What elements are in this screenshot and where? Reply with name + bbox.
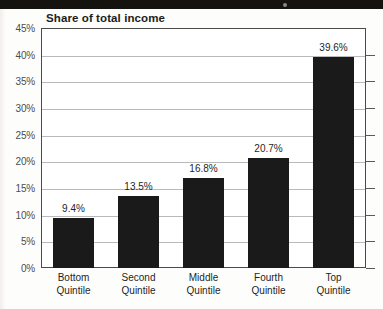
y-axis-tick-label: 45% [1,23,35,34]
bar-value-label: 9.4% [62,203,85,214]
axis-tick [366,161,375,162]
axis-tick [366,135,375,136]
y-axis-tick-label: 0% [1,263,35,274]
bar-value-label: 39.6% [319,42,347,53]
y-axis-tick-label: 30% [1,103,35,114]
bar [183,178,224,268]
category-label-line: Quintile [187,285,221,298]
chart-title: Share of total income [46,12,165,24]
axis-tick [366,108,375,109]
chart-figure: Share of total income 0%5%10%15%20%25%30… [0,0,383,309]
axis-tick [366,241,375,242]
y-axis-tick-label: 40% [1,49,35,60]
bar [248,158,289,268]
category-label-line: Quintile [57,285,91,298]
category-label-line: Quintile [317,285,351,298]
category-label-line: Quintile [252,285,286,298]
axis-tick [366,268,375,269]
y-axis-tick-label: 35% [1,76,35,87]
x-axis-category-label: BottomQuintile [57,272,91,297]
x-axis-category-label: SecondQuintile [122,272,156,297]
category-label-line: Fourth [252,272,286,285]
axis-tick [366,55,375,56]
y-axis-tick-label: 20% [1,156,35,167]
y-axis-tick-label: 15% [1,183,35,194]
category-label-line: Bottom [57,272,91,285]
category-label-line: Middle [187,272,221,285]
category-label-line: Quintile [122,285,156,298]
axis-tick [366,188,375,189]
bar [118,196,159,268]
axis-tick [366,81,375,82]
y-axis-tick-label: 10% [1,209,35,220]
bar-value-label: 16.8% [189,163,217,174]
y-axis-tick-label: 25% [1,129,35,140]
bar [313,57,354,268]
axis-tick [366,215,375,216]
x-axis-category-label: TopQuintile [317,272,351,297]
x-axis-category-label: MiddleQuintile [187,272,221,297]
bar [53,218,94,268]
category-label-line: Top [317,272,351,285]
y-axis-tick-label: 5% [1,236,35,247]
category-label-line: Second [122,272,156,285]
scan-artifact-band [0,0,383,9]
x-axis-category-label: FourthQuintile [252,272,286,297]
bar-value-label: 20.7% [254,143,282,154]
bar-value-label: 13.5% [124,181,152,192]
